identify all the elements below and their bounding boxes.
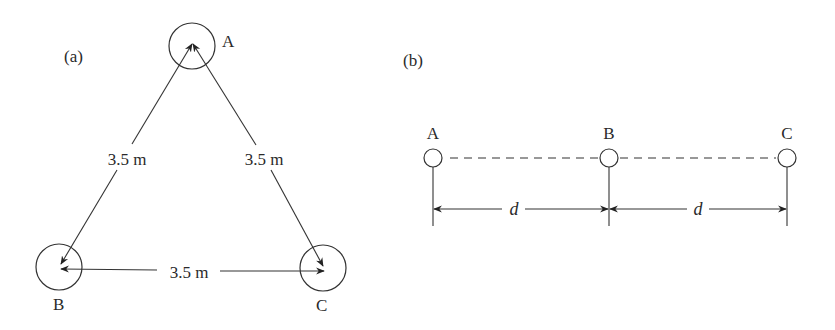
edge-a-b-upper-arrow [132,44,192,144]
figure-canvas: (a) A B C 3.5 m 3.5 m 3.5 m (b) A B C [0,0,835,330]
node-c-circle [300,245,346,291]
node-a-circle [169,23,215,69]
panel-b-label: (b) [403,51,423,70]
edge-a-b-lower-arrow [61,170,117,264]
edge-a-c-lower-arrow [271,170,323,266]
dimension-a-b-label: d [510,199,520,219]
edge-a-c-label: 3.5 m [245,150,284,169]
node-c-label: C [316,296,327,315]
edge-b-c-label: 3.5 m [170,263,209,282]
node-b-label: B [53,295,64,314]
node-b-a-circle [424,149,442,167]
node-b-c-circle [778,149,796,167]
edge-a-b-label: 3.5 m [108,150,147,169]
edge-a-c-upper-arrow [193,44,256,145]
node-b-circle [36,244,82,290]
edge-b-c-left-arrow [61,269,157,270]
panel-a-label: (a) [64,47,83,66]
node-b-a-label: A [427,124,440,143]
dimension-b-c-label: d [694,199,704,219]
node-b-b-label: B [603,124,614,143]
node-b-c-label: C [781,124,792,143]
panel-a: (a) A B C 3.5 m 3.5 m 3.5 m [36,23,346,315]
node-a-label: A [222,32,235,51]
panel-b: (b) A B C d d [403,51,796,226]
node-b-b-circle [600,149,618,167]
